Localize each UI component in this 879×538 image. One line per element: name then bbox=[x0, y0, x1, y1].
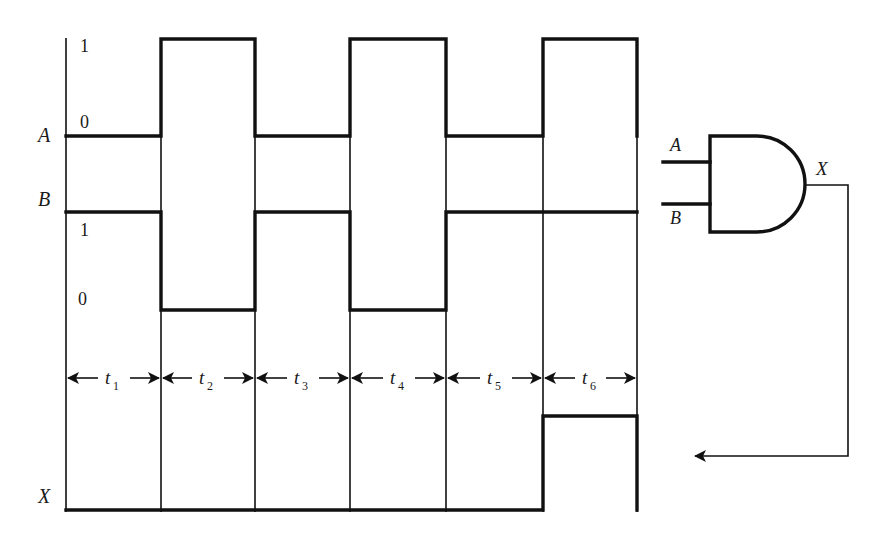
gate-output-wire bbox=[695, 185, 848, 456]
svg-text:2: 2 bbox=[207, 379, 213, 393]
gate-output-label: X bbox=[815, 158, 829, 179]
interval-t1: t 1 bbox=[68, 367, 159, 393]
gate-input-a-label: A bbox=[669, 135, 682, 155]
svg-text:t: t bbox=[105, 367, 111, 388]
level-a-high: 1 bbox=[80, 36, 89, 56]
svg-text:t: t bbox=[582, 367, 588, 388]
signal-label-b: B bbox=[38, 188, 50, 210]
interval-t3: t 3 bbox=[257, 367, 348, 393]
level-b-low: 0 bbox=[78, 289, 87, 309]
and-gate: A B X bbox=[663, 135, 848, 456]
waveform-a bbox=[66, 39, 637, 136]
interval-t6: t 6 bbox=[545, 367, 635, 393]
and-gate-body-icon bbox=[710, 136, 805, 232]
svg-text:t: t bbox=[199, 367, 205, 388]
signal-label-x: X bbox=[37, 485, 51, 507]
level-b-high: 1 bbox=[80, 220, 89, 240]
waveform-x bbox=[66, 416, 637, 510]
gate-input-b-label: B bbox=[670, 208, 681, 228]
waveform-b bbox=[66, 212, 637, 310]
svg-text:5: 5 bbox=[495, 379, 501, 393]
interval-dividers bbox=[161, 136, 637, 512]
svg-text:3: 3 bbox=[302, 379, 308, 393]
svg-text:t: t bbox=[487, 367, 493, 388]
svg-text:1: 1 bbox=[113, 379, 119, 393]
level-a-low: 0 bbox=[80, 112, 89, 132]
signal-label-a: A bbox=[36, 124, 51, 146]
interval-t5: t 5 bbox=[448, 367, 541, 393]
interval-t2: t 2 bbox=[163, 367, 253, 393]
timing-diagram: A B X 1 0 1 0 t 1 t 2 t 3 t 4 t 5 t 6 bbox=[0, 0, 879, 538]
svg-text:4: 4 bbox=[398, 379, 404, 393]
svg-text:t: t bbox=[294, 367, 300, 388]
svg-text:t: t bbox=[390, 367, 396, 388]
svg-text:6: 6 bbox=[590, 379, 596, 393]
interval-t4: t 4 bbox=[352, 367, 444, 393]
